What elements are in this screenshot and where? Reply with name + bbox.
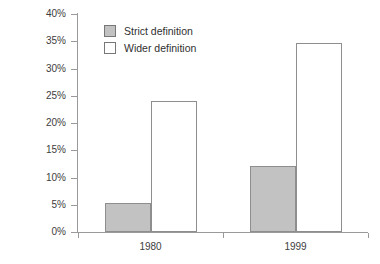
legend-label-strict: Strict definition <box>124 25 193 37</box>
y-axis-tick <box>71 178 77 179</box>
bar-chart: 0%5%10%15%20%25%30%35%40% 19801999 Stric… <box>0 0 380 264</box>
legend-swatch-strict-icon <box>104 25 116 37</box>
y-axis-label: 40% <box>46 9 66 19</box>
y-axis-tick <box>71 205 77 206</box>
y-axis-tick <box>71 232 77 233</box>
legend-label-wider: Wider definition <box>124 42 196 54</box>
y-axis-label: 20% <box>46 118 66 128</box>
legend-swatch-wider-icon <box>104 42 116 54</box>
y-axis-tick <box>71 96 77 97</box>
bar-1999-strict <box>250 166 296 232</box>
y-axis-tick <box>71 69 77 70</box>
y-axis-tick <box>71 123 77 124</box>
y-axis-label: 10% <box>46 173 66 183</box>
bar-1980-wider <box>151 101 197 232</box>
x-axis-tick <box>78 233 79 238</box>
x-axis-tick <box>368 233 369 238</box>
legend-item-strict: Strict definition <box>104 22 196 39</box>
y-axis-tick <box>71 41 77 42</box>
x-axis-label-1999: 1999 <box>223 241 368 252</box>
x-axis-tick <box>223 233 224 238</box>
y-axis-label: 15% <box>46 145 66 155</box>
x-axis-label-1980: 1980 <box>78 241 223 252</box>
y-axis-label: 25% <box>46 91 66 101</box>
y-axis-label: 0% <box>52 227 66 237</box>
chart-legend: Strict definition Wider definition <box>104 22 196 56</box>
y-axis-label: 30% <box>46 64 66 74</box>
y-axis-label: 35% <box>46 36 66 46</box>
bar-1999-wider <box>296 43 342 232</box>
y-axis-tick <box>71 150 77 151</box>
legend-item-wider: Wider definition <box>104 39 196 56</box>
bar-1980-strict <box>105 203 151 232</box>
y-axis-tick <box>71 14 77 15</box>
y-axis-label: 5% <box>52 200 66 210</box>
